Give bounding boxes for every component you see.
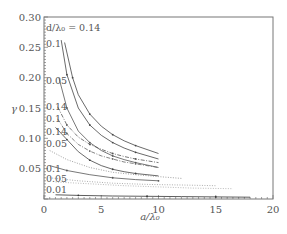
data-point: [89, 144, 91, 146]
y-tick-label: 0.20: [19, 72, 41, 83]
x-tick-label: 15: [209, 204, 222, 215]
data-point: [215, 196, 217, 198]
y-tick-label: 0.05: [19, 163, 41, 174]
y-tick-label: 0.25: [19, 42, 41, 53]
data-point: [135, 145, 137, 147]
data-point: [135, 173, 137, 175]
data-point: [146, 195, 148, 197]
curve-labels: d/λ₀ = 0.140.10.050.140.10.140.050.10.05…: [46, 22, 100, 195]
data-point: [112, 142, 114, 144]
x-axis-ticks: 05101520: [41, 195, 280, 215]
data-point: [89, 150, 91, 152]
x-tick-label: 0: [41, 204, 47, 215]
data-point: [89, 142, 91, 144]
data-point: [89, 159, 91, 161]
curve-label: 0.01: [46, 184, 67, 195]
x-axis-title: a/λ₀: [140, 211, 160, 222]
data-point: [135, 158, 137, 160]
data-curves: [50, 40, 250, 198]
data-series: [61, 40, 158, 159]
data-point: [112, 155, 114, 157]
curve-label: 0.1: [46, 113, 61, 124]
curve-label: 0.14: [46, 101, 67, 112]
data-point: [135, 163, 137, 165]
data-series: [65, 43, 159, 154]
data-point: [112, 153, 114, 155]
data-point: [72, 77, 74, 79]
y-tick-label: 0.10: [19, 133, 41, 144]
data-point: [158, 180, 160, 182]
data-point: [89, 113, 91, 115]
curve-label: 0.14: [46, 126, 67, 137]
data-point: [89, 124, 91, 126]
data-series: [56, 182, 233, 189]
x-tick-label: 20: [267, 204, 280, 215]
data-point: [77, 194, 79, 196]
y-tick-label: 0.15: [19, 103, 41, 114]
data-point: [112, 158, 114, 160]
data-series: [59, 78, 159, 168]
data-point: [66, 170, 68, 172]
curve-label: 0.1: [46, 38, 61, 49]
curve-label: 0.05: [46, 173, 67, 184]
curve-label: d/λ₀ = 0.14: [46, 22, 100, 33]
x-tick-label: 5: [98, 204, 104, 215]
y-tick-label: 0.30: [19, 12, 41, 23]
data-point: [135, 151, 137, 153]
data-series: [56, 127, 159, 175]
data-point: [112, 177, 114, 179]
chart: 0.050.100.150.200.250.30 05101520 d/λ₀ =…: [0, 0, 287, 234]
data-series: [50, 151, 182, 179]
curve-label: 0.05: [46, 75, 67, 86]
y-axis-title: γ: [11, 103, 17, 114]
data-point: [112, 134, 114, 136]
data-point: [112, 168, 114, 170]
curve-label: 0.05: [46, 138, 67, 149]
data-series: [56, 195, 251, 197]
